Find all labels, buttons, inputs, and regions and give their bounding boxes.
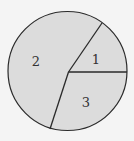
region-label-1: 1 (92, 52, 100, 67)
region-label-2: 2 (32, 54, 40, 69)
circle-outline (8, 12, 127, 131)
partitioned-circle-diagram: 1 2 3 (0, 0, 134, 141)
region-label-3: 3 (82, 95, 90, 110)
